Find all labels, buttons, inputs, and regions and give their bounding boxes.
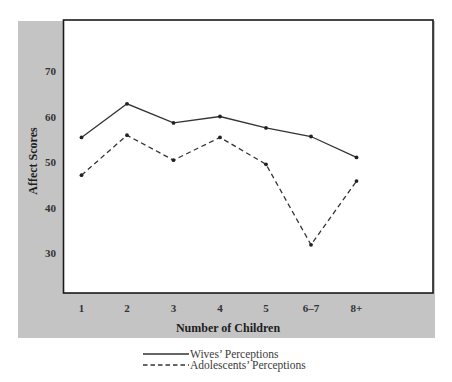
y-tick-label: 30	[45, 247, 57, 259]
data-point-marker	[125, 133, 129, 137]
y-tick-label: 60	[45, 111, 57, 123]
data-point-marker	[172, 158, 176, 162]
y-tick-label: 40	[45, 202, 57, 214]
legend-label-adolescents: Adolescents’ Perceptions	[190, 359, 306, 372]
y-tick-label: 70	[45, 65, 57, 77]
x-tick-label: 8+	[351, 302, 363, 314]
plot-area	[64, 20, 434, 293]
x-tick-label: 2	[124, 302, 130, 314]
y-tick-label: 50	[45, 156, 57, 168]
data-point-marker	[125, 102, 129, 106]
line-chart: 3040506070 123456–78+ Affect Scores Numb…	[0, 0, 452, 382]
data-point-marker	[80, 173, 84, 177]
data-point-marker	[355, 179, 359, 183]
data-point-marker	[264, 126, 268, 130]
data-point-marker	[309, 243, 313, 247]
x-tick-label: 4	[217, 302, 223, 314]
data-point-marker	[309, 135, 313, 139]
x-axis-title: Number of Children	[176, 321, 281, 335]
x-tick-label: 6–7	[303, 302, 320, 314]
data-point-marker	[355, 156, 359, 160]
data-point-marker	[80, 136, 84, 140]
x-tick-label: 3	[171, 302, 177, 314]
data-point-marker	[218, 115, 222, 119]
data-point-marker	[172, 121, 176, 125]
legend: Wives’ Perceptions Adolescents’ Percepti…	[143, 348, 306, 372]
data-point-marker	[264, 162, 268, 166]
data-point-marker	[218, 136, 222, 140]
y-axis-title: Affect Scores	[26, 127, 40, 195]
x-tick-label: 1	[79, 302, 85, 314]
x-tick-label: 5	[263, 302, 269, 314]
